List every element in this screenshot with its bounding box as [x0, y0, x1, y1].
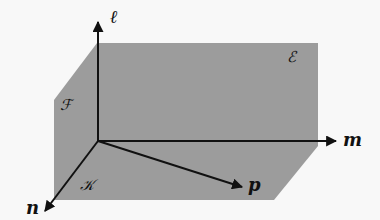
- axis-label-p: p: [248, 176, 261, 194]
- plane-label-e: ℰ: [287, 50, 296, 65]
- axis-label-m: m: [343, 131, 362, 149]
- axis-label-n: n: [26, 199, 39, 217]
- diagram-canvas: ℓ m n p ℰ ℱ 𝒦: [0, 0, 380, 220]
- diagram-svg: [0, 0, 380, 220]
- plane-label-f: ℱ: [60, 98, 72, 113]
- plane-label-k: 𝒦: [80, 178, 94, 193]
- axis-label-l: ℓ: [110, 8, 118, 26]
